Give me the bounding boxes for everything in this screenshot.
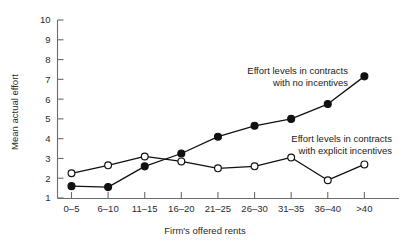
x-axis-tick-label: 16–20 xyxy=(168,203,194,214)
x-axis-tick-label: 6–10 xyxy=(98,203,119,214)
y-axis-ticks xyxy=(58,20,64,198)
x-axis-tick-labels: 0–56–1011–1516–2021–2526–3031–3536–40>40 xyxy=(64,203,373,214)
annotation-explicit-incentives-line1: Effort levels in contracts xyxy=(291,133,392,144)
x-axis-tick-label: 26–30 xyxy=(241,203,267,214)
y-axis-tick-label: 2 xyxy=(45,173,50,184)
data-point xyxy=(324,101,331,108)
data-point xyxy=(178,158,185,165)
chart-container: Mean actual effort 12345678910 0–56–1011… xyxy=(0,0,410,244)
x-axis-tick-label: 31–35 xyxy=(278,203,304,214)
x-axis-tick-label: 0–5 xyxy=(64,203,80,214)
data-point xyxy=(105,162,112,169)
data-point xyxy=(105,184,112,191)
y-axis-tick-label: 4 xyxy=(45,133,50,144)
data-point xyxy=(68,170,75,177)
y-axis-tick-labels: 12345678910 xyxy=(40,14,51,203)
data-point xyxy=(178,150,185,157)
data-point xyxy=(141,163,148,170)
y-axis-tick-label: 9 xyxy=(45,34,50,45)
x-axis-tick-label: 21–25 xyxy=(205,203,231,214)
data-point xyxy=(288,115,295,122)
y-axis-tick-label: 6 xyxy=(45,94,50,105)
data-point xyxy=(361,161,368,168)
y-axis-title: Mean actual effort xyxy=(9,74,20,150)
x-axis-tick-label: >40 xyxy=(356,203,372,214)
annotation-explicit-incentives-line2: with explicit incentives xyxy=(298,145,393,156)
annotation-no-incentives-line2: with no incentives xyxy=(272,77,348,88)
data-point xyxy=(251,163,258,170)
annotation-no-incentives-line1: Effort levels in contracts xyxy=(247,65,348,76)
data-point xyxy=(68,183,75,190)
y-axis-tick-label: 7 xyxy=(45,74,50,85)
data-point xyxy=(215,165,222,172)
data-point xyxy=(361,73,368,80)
x-axis-tick-label: 11–15 xyxy=(132,203,158,214)
effort-vs-rents-line-chart: Mean actual effort 12345678910 0–56–1011… xyxy=(0,0,410,244)
data-point xyxy=(288,154,295,161)
series-explicit-incentives-points xyxy=(68,153,368,184)
data-point xyxy=(141,153,148,160)
y-axis-tick-label: 1 xyxy=(45,192,50,203)
y-axis-tick-label: 8 xyxy=(45,54,50,65)
y-axis-tick-label: 5 xyxy=(45,113,50,124)
x-axis-title: Firm's offered rents xyxy=(164,225,246,236)
x-axis-tick-label: 36–40 xyxy=(315,203,341,214)
data-point xyxy=(324,177,331,184)
data-point xyxy=(214,133,221,140)
y-axis-tick-label: 10 xyxy=(40,14,51,25)
x-axis-ticks xyxy=(72,192,365,198)
data-point xyxy=(251,122,258,129)
y-axis-tick-label: 3 xyxy=(45,153,50,164)
series-no-incentives-points xyxy=(68,73,368,191)
